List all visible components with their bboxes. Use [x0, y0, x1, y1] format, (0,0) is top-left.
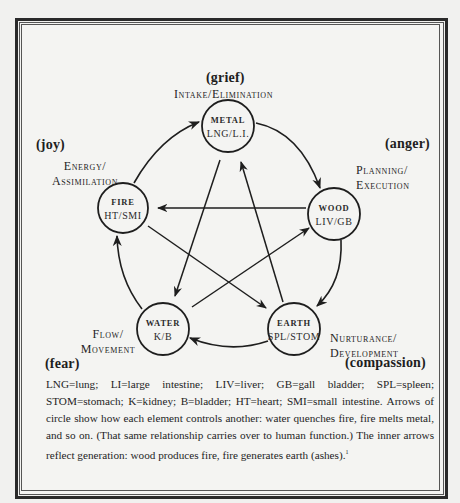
footnote-mark: 1	[345, 449, 348, 455]
caption-text: LNG=lung; LI=large intestine; LIV=liver;…	[46, 378, 434, 461]
caption: LNG=lung; LI=large intestine; LIV=liver;…	[46, 376, 434, 464]
function-fire: Energy/ Assimilation	[50, 159, 120, 189]
node-earth: EARTH SPL/STOM	[268, 303, 320, 355]
node-water: WATER K/B	[137, 303, 189, 355]
node-metal-organs: LNG/L.I.	[207, 128, 250, 139]
arrow-water-to-wood	[192, 228, 309, 307]
node-fire-element: FIRE	[111, 197, 135, 207]
node-water-organs: K/B	[154, 331, 172, 342]
emotion-joy: (joy)	[36, 137, 65, 153]
arrow-water-to-fire	[117, 236, 142, 309]
function-metal: Intake/Elimination	[174, 87, 273, 102]
node-wood: WOOD LIV/GB	[308, 188, 360, 240]
arrow-earth-to-metal	[241, 162, 283, 302]
arrow-fire-to-earth	[148, 226, 266, 308]
function-fire-line1: Energy/	[50, 159, 120, 174]
arrow-earth-to-water	[190, 338, 268, 347]
node-water-element: WATER	[146, 318, 181, 328]
emotion-compassion: (compassion)	[345, 355, 426, 371]
function-wood-line2: Execution	[356, 178, 410, 193]
arrow-fire-to-metal	[134, 122, 199, 183]
node-metal: METAL LNG/L.I.	[202, 100, 254, 152]
node-wood-element: WOOD	[318, 203, 349, 213]
node-wood-organs: LIV/GB	[316, 216, 353, 227]
function-earth-line1: Nurturance/	[330, 331, 399, 346]
emotion-fear: (fear)	[45, 356, 80, 372]
node-metal-element: METAL	[211, 115, 246, 125]
arrow-metal-to-wood	[256, 123, 320, 188]
function-water-line2: Movement	[78, 342, 138, 357]
function-water: Flow/ Movement	[78, 327, 138, 357]
function-water-line1: Flow/	[78, 327, 138, 342]
node-earth-element: EARTH	[277, 318, 311, 328]
function-wood-line1: Planning/	[356, 163, 410, 178]
function-fire-line2: Assimilation	[50, 174, 120, 189]
node-fire-organs: HT/SMI	[104, 210, 142, 221]
node-fire: FIRE HT/SMI	[98, 183, 148, 233]
emotion-grief: (grief)	[206, 70, 245, 86]
inner-arrows	[148, 160, 309, 308]
function-wood: Planning/ Execution	[356, 163, 410, 193]
emotion-anger: (anger)	[385, 136, 430, 152]
arrow-metal-to-water	[175, 160, 220, 296]
arrow-wood-to-earth	[317, 240, 341, 306]
node-earth-organs: SPL/STOM	[268, 331, 320, 342]
